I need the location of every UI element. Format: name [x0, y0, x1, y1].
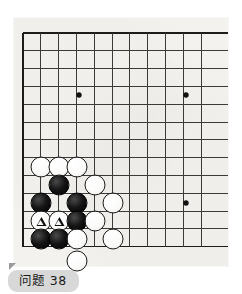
go-board-grid	[0, 0, 242, 294]
go-stone-white[interactable]	[67, 251, 88, 272]
page-root: 问题 38	[0, 0, 242, 294]
go-stone-white[interactable]	[67, 229, 88, 250]
go-stone-black[interactable]	[49, 175, 70, 196]
star-point	[183, 92, 188, 97]
go-stone-white[interactable]	[67, 157, 88, 178]
go-stone-white[interactable]	[85, 211, 106, 232]
star-point	[183, 200, 188, 205]
page-fold-icon	[9, 263, 16, 270]
go-stone-white[interactable]	[85, 175, 106, 196]
triangle-marker-icon	[54, 217, 64, 226]
go-stone-white[interactable]	[103, 229, 124, 250]
caption: 问题 38	[8, 270, 79, 292]
triangle-marker-icon	[36, 217, 46, 226]
star-point	[76, 92, 81, 97]
go-stone-white[interactable]	[103, 193, 124, 214]
problem-label[interactable]: 问题 38	[8, 270, 79, 292]
